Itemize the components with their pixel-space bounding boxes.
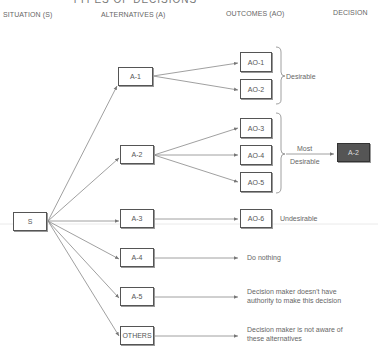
header-alternatives: ALTERNATIVES (A): [101, 11, 165, 18]
alternative-box-others: OTHERS: [120, 326, 154, 345]
header-situation: SITUATION (S): [3, 11, 52, 18]
alternative-box-a4: A-4: [120, 248, 154, 267]
header-decision: DECISION: [333, 9, 368, 16]
label-most-desirable: Desirable: [290, 157, 320, 166]
situation-box: S: [13, 212, 47, 231]
label-no-authority-2: authority to make this decision: [247, 296, 341, 305]
label-most: Most: [297, 144, 312, 153]
label-not-aware-2: these alternatives: [247, 334, 302, 343]
label-desirable: Desirable: [286, 72, 316, 81]
alternative-box-a3: A-3: [120, 209, 154, 228]
decision-box: A-2: [337, 143, 370, 162]
alternative-box-a5: A-5: [120, 287, 154, 306]
outcome-box-ao3: AO-3: [240, 118, 272, 138]
header-outcomes: OUTCOMES (AO): [226, 10, 284, 17]
label-no-authority-1: Decision maker doesn't have: [247, 287, 337, 296]
label-do-nothing: Do nothing: [247, 253, 281, 262]
alternative-box-a2: A-2: [120, 145, 154, 164]
outcome-box-ao1: AO-1: [240, 52, 272, 72]
outcome-box-ao4: AO-4: [240, 145, 272, 165]
diagram-title: TYPES OF DECISIONS: [72, 0, 197, 5]
outcome-box-ao6: AO-6: [240, 209, 272, 228]
alternative-box-a1: A-1: [118, 67, 153, 86]
label-undesirable: Undesirable: [280, 214, 317, 223]
outcome-box-ao5: AO-5: [240, 172, 272, 192]
outcome-box-ao2: AO-2: [240, 79, 272, 99]
label-not-aware-1: Decision maker is not aware of: [247, 325, 343, 334]
